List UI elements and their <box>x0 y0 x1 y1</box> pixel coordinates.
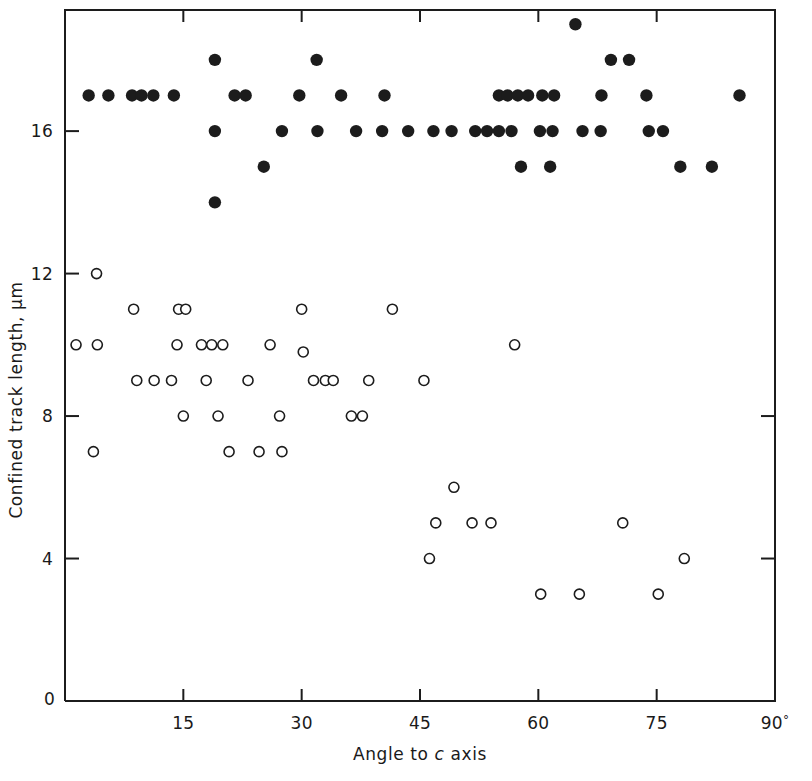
data-point <box>258 161 270 173</box>
data-point <box>209 196 221 208</box>
data-point <box>674 161 686 173</box>
x-axis-label: Angle to c axis <box>353 744 487 764</box>
data-point <box>364 375 374 385</box>
data-point <box>505 125 517 137</box>
data-point <box>224 447 234 457</box>
data-point <box>640 89 652 101</box>
data-point <box>605 54 617 66</box>
y-axis-tick-labels: 481216 <box>31 121 53 568</box>
data-point <box>536 89 548 101</box>
data-point <box>265 340 275 350</box>
data-point <box>218 340 228 350</box>
data-point <box>71 340 81 350</box>
data-point <box>548 89 560 101</box>
data-point <box>469 125 481 137</box>
data-point <box>346 411 356 421</box>
data-point <box>209 54 221 66</box>
data-point <box>102 89 114 101</box>
data-point <box>510 340 520 350</box>
data-point <box>213 411 223 421</box>
data-point <box>424 554 434 564</box>
x-tick-label: 90° <box>761 713 790 733</box>
data-point <box>522 89 534 101</box>
data-point <box>167 375 177 385</box>
data-point <box>595 89 607 101</box>
data-point <box>706 161 718 173</box>
data-point <box>544 161 556 173</box>
data-point <box>254 447 264 457</box>
figure-container: 0153045607590° 481216 Angle to c axis Co… <box>0 0 812 781</box>
data-point <box>309 375 319 385</box>
y-tick-label: 12 <box>31 264 53 284</box>
data-point <box>467 518 477 528</box>
data-point <box>82 89 94 101</box>
data-point <box>643 125 655 137</box>
scatter-plot: 0153045607590° 481216 Angle to c axis Co… <box>0 0 812 781</box>
data-point <box>653 589 663 599</box>
data-point <box>427 125 439 137</box>
svg-text:Confined track length, μm: Confined track length, μm <box>6 281 26 518</box>
data-point <box>618 518 628 528</box>
y-tick-label: 8 <box>42 406 53 426</box>
data-point <box>569 18 581 30</box>
data-point <box>297 304 307 314</box>
data-point <box>328 375 338 385</box>
data-point <box>201 375 211 385</box>
data-point <box>493 125 505 137</box>
data-point <box>168 89 180 101</box>
x-tick-label: 0 <box>44 689 55 709</box>
data-point <box>378 89 390 101</box>
data-point <box>92 340 102 350</box>
data-point <box>181 304 191 314</box>
y-tick-label: 16 <box>31 121 53 141</box>
data-point <box>657 125 669 137</box>
x-tick-label: 30 <box>291 713 313 733</box>
data-point <box>209 125 221 137</box>
data-point <box>310 54 322 66</box>
open-circle-series <box>71 269 689 600</box>
x-tick-label: 60 <box>527 713 549 733</box>
data-point <box>402 125 414 137</box>
data-point <box>515 161 527 173</box>
data-point <box>445 125 457 137</box>
data-point <box>679 554 689 564</box>
data-point <box>277 447 287 457</box>
data-point <box>243 375 253 385</box>
data-point <box>357 411 367 421</box>
data-point <box>293 89 305 101</box>
data-point <box>376 125 388 137</box>
y-axis-label: Confined track length, μm <box>6 281 26 518</box>
data-point <box>486 518 496 528</box>
y-tick-label: 4 <box>42 549 53 569</box>
data-point <box>228 89 240 101</box>
data-point <box>431 518 441 528</box>
data-point <box>92 269 102 279</box>
data-point <box>276 125 288 137</box>
data-point <box>546 125 558 137</box>
x-tick-label: 15 <box>172 713 194 733</box>
data-point <box>196 340 206 350</box>
x-axis-tick-labels: 0153045607590° <box>44 689 789 733</box>
data-point <box>135 89 147 101</box>
data-point <box>419 375 429 385</box>
data-point <box>298 347 308 357</box>
data-point <box>623 54 635 66</box>
data-point <box>172 340 182 350</box>
x-tick-label: 75 <box>646 713 668 733</box>
data-point <box>129 304 139 314</box>
data-point <box>576 125 588 137</box>
filled-circle-series <box>82 18 745 208</box>
data-point <box>178 411 188 421</box>
data-point <box>132 375 142 385</box>
data-point <box>275 411 285 421</box>
data-point <box>536 589 546 599</box>
data-point <box>88 447 98 457</box>
data-point <box>149 375 159 385</box>
data-point <box>239 89 251 101</box>
data-point <box>574 589 584 599</box>
data-point <box>534 125 546 137</box>
data-point <box>147 89 159 101</box>
data-point <box>733 89 745 101</box>
data-point <box>594 125 606 137</box>
plot-frame <box>65 10 775 701</box>
